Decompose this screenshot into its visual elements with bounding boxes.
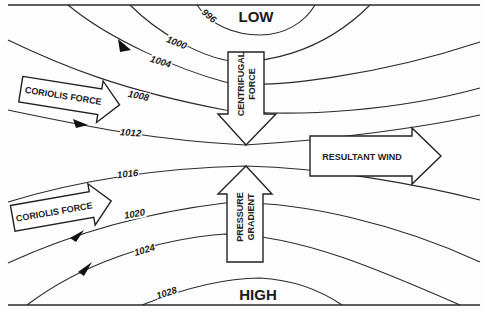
svg-text:1012: 1012 xyxy=(120,126,143,138)
centrifugal-label-2: FORCE xyxy=(247,68,257,100)
svg-text:1008: 1008 xyxy=(127,88,151,103)
resultant-wind-label: RESULTANT WIND xyxy=(322,152,402,162)
svg-text:1028: 1028 xyxy=(155,284,179,301)
pressure-label-1: PRESSURE xyxy=(235,192,245,242)
resultant-wind-arrow: RESULTANT WIND xyxy=(310,128,441,184)
pressure-gradient-arrow: PRESSURE GRADIENT xyxy=(218,166,272,262)
svg-text:1004: 1004 xyxy=(149,53,173,70)
high-label: HIGH xyxy=(239,286,277,303)
isobar-label-1008: 1008 xyxy=(127,88,151,103)
centrifugal-label-1: CENTRIFUGAL xyxy=(236,51,246,116)
isobar-label-1028: 1028 xyxy=(155,284,179,301)
flow-arrowhead-1 xyxy=(118,39,131,52)
pressure-label-2: GRADIENT xyxy=(246,193,256,241)
isobar-label-1024: 1024 xyxy=(133,241,157,258)
isobar-label-1016: 1016 xyxy=(116,167,139,180)
svg-text:1020: 1020 xyxy=(123,206,146,221)
coriolis-force-arrow-upper: CORIOLIS FORCE xyxy=(17,68,122,125)
pressure-wind-diagram: 996 1000 1004 1008 1012 1016 1020 1024 1… xyxy=(0,0,483,312)
flow-arrowhead-2 xyxy=(73,119,88,128)
isobar-1004 xyxy=(68,5,480,84)
isobar-label-1012: 1012 xyxy=(120,126,143,139)
flow-arrowhead-3 xyxy=(70,230,84,242)
isobar-label-996: 996 xyxy=(199,6,220,25)
coriolis-force-arrow-lower: CORIOLIS FORCE xyxy=(9,180,115,239)
isobar-label-1000: 1000 xyxy=(165,33,189,51)
low-label: LOW xyxy=(239,8,275,25)
isobar-label-1004: 1004 xyxy=(149,53,173,70)
centrifugal-force-arrow: CENTRIFUGAL FORCE xyxy=(218,51,276,145)
svg-text:996: 996 xyxy=(200,6,220,25)
svg-text:1024: 1024 xyxy=(133,241,157,258)
isobar-label-1020: 1020 xyxy=(123,206,147,221)
svg-text:1016: 1016 xyxy=(116,167,139,180)
flow-arrowhead-4 xyxy=(78,262,92,276)
